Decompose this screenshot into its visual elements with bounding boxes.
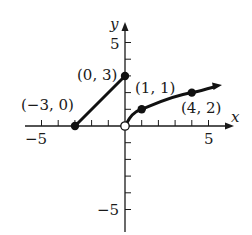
y-tick-label-pos5: 5 [110, 35, 120, 53]
closed-point-1-1 [138, 105, 146, 113]
y-axis-label: y [109, 15, 119, 33]
y-tick-label-neg5: −5 [97, 201, 119, 219]
point-label-0-3: (0, 3) [77, 66, 117, 84]
closed-point-m3-0 [71, 122, 79, 130]
x-axis-label: x [231, 108, 240, 126]
point-label-m3-0: (−3, 0) [21, 96, 74, 114]
curve-arrow-icon [212, 83, 222, 91]
graph: −5 5 5 −5 y x (−3, 0) (0, 3) (1, 1) (4, … [0, 0, 252, 235]
point-label-4-2: (4, 2) [181, 99, 221, 117]
closed-point-4-2 [188, 88, 196, 96]
open-point-origin [121, 122, 129, 130]
y-axis-arrow-icon [122, 22, 129, 31]
closed-point-0-3 [121, 72, 129, 80]
point-label-1-1: (1, 1) [135, 79, 175, 97]
x-tick-label-neg5: −5 [25, 130, 47, 148]
x-tick-label-pos5: 5 [204, 130, 214, 148]
